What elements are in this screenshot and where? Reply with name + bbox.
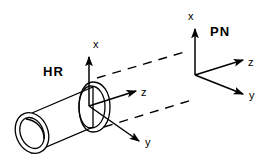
hr-axis-y-line [89,106,139,141]
hr-frame-label: HR [43,64,64,79]
flange-outer-arc-right [93,82,110,132]
lower-dashed-projection [104,100,192,127]
hr-axis-z-label: z [141,86,147,98]
hr-axis-z-line [89,91,136,106]
pn-frame-label: PN [210,24,230,39]
pn-axis-x-label: x [188,10,194,22]
pn-axis-y-line [195,75,243,94]
cylinder-pipe [9,82,110,158]
pn-axis-z-line [195,60,243,75]
hr-axis-y-label: y [145,136,151,148]
pn-coordinate-frame: x z y PN [188,10,255,101]
pn-axis-y-label: y [249,89,255,101]
diagram-canvas: x z y HR x z y PN [0,0,272,167]
hr-axis-x-label: x [93,38,99,50]
pn-axis-z-label: z [248,56,254,68]
technical-diagram: x z y HR x z y PN [0,0,272,167]
upper-dashed-projection [97,51,188,78]
